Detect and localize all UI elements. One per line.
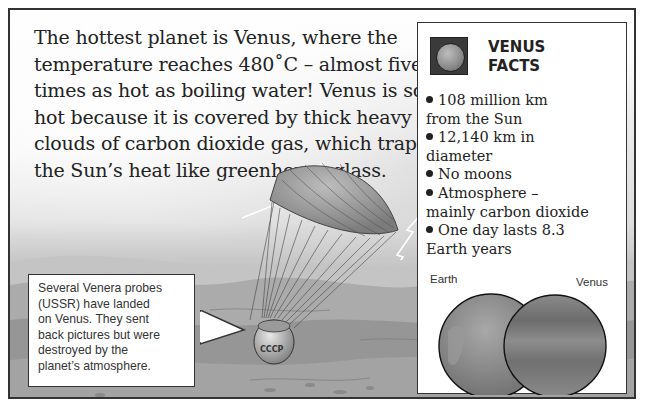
illustration-frame: The hottest planet is Venus, where the t… [8,8,636,399]
facts-list: 108 million kmfrom the Sun 12,140 km ind… [426,91,626,258]
fact-item: One day lasts 8.3Earth years [426,221,626,258]
bullet-icon [426,189,433,196]
bullet-icon [426,133,433,140]
fact-item: 12,140 km indiameter [426,128,626,165]
callout-text: Several Venera probes (USSR) have landed… [38,281,193,375]
facts-title: VENUS FACTS [488,38,545,76]
bullet-icon [426,96,433,103]
fact-item: No moons [426,165,626,184]
fact-item: Atmosphere –mainly carbon dioxide [426,184,626,221]
venus-planet-icon [430,37,468,75]
venus-label: Venus [576,276,608,288]
venus-icon [504,295,606,395]
bullet-icon [426,170,433,177]
fact-item: 108 million kmfrom the Sun [426,91,626,128]
venera-callout: Several Venera probes (USSR) have landed… [28,274,195,387]
cccp-label: CCCP [260,345,284,354]
earth-label: Earth [430,273,458,285]
bullet-icon [426,226,433,233]
earth-venus-size-comparison [418,291,628,395]
callout-pointer [200,310,250,350]
venus-facts-panel: VENUS FACTS 108 million kmfrom the Sun 1… [417,22,627,394]
